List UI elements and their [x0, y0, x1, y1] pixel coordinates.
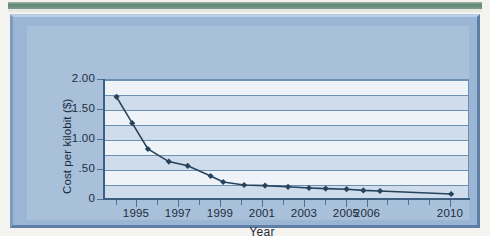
data-point-marker: [185, 163, 191, 169]
x-axis-tick-label: 1995: [123, 207, 149, 219]
page-top-band: [8, 2, 482, 9]
data-point-marker: [241, 182, 247, 188]
line-series: [104, 80, 469, 199]
data-point-marker: [344, 186, 350, 192]
x-axis-minor-tick: [387, 200, 388, 205]
x-axis-minor-tick: [429, 200, 430, 205]
x-axis-tick-label: 2006: [354, 207, 380, 219]
x-axis-minor-tick: [241, 200, 242, 205]
y-axis-tick: [97, 199, 103, 200]
y-axis-tick-label: 1.50: [72, 102, 95, 114]
chart-panel: 2.001.501.00.500 19951997199920012003200…: [27, 26, 469, 220]
y-axis-line: [103, 79, 105, 200]
data-point-marker: [323, 186, 329, 192]
x-axis-tick: [178, 200, 179, 207]
y-axis-tick: [97, 139, 103, 140]
y-axis-tick: [97, 79, 103, 80]
x-axis-tick-label: 1999: [207, 207, 233, 219]
x-axis-tick: [304, 200, 305, 207]
x-axis-tick: [450, 200, 451, 207]
x-axis-line: [103, 198, 470, 200]
scanned-page-background: 2.001.501.00.500 19951997199920012003200…: [0, 0, 490, 236]
y-axis-tick-label: 1.00: [72, 132, 95, 144]
x-axis-minor-tick: [157, 200, 158, 205]
data-point-marker: [306, 185, 312, 191]
x-axis-tick: [220, 200, 221, 207]
x-axis-minor-tick: [116, 200, 117, 205]
x-axis-tick-label: 1997: [165, 207, 191, 219]
x-axis-tick: [136, 200, 137, 207]
x-axis-tick-label: 2003: [291, 207, 317, 219]
x-axis-tick: [262, 200, 263, 207]
data-point-marker: [208, 173, 214, 179]
plot-area: [103, 79, 469, 199]
x-axis-tick-label: 2010: [437, 207, 463, 219]
data-point-marker: [360, 187, 366, 193]
series-line: [117, 97, 452, 194]
y-axis-tick-label: 0: [88, 192, 95, 204]
x-axis-tick-label: 2001: [249, 207, 275, 219]
data-point-marker: [377, 188, 383, 194]
x-axis-tick: [367, 200, 368, 207]
data-point-marker: [285, 184, 291, 190]
y-axis-tick: [97, 169, 103, 170]
data-point-marker: [262, 183, 268, 189]
y-axis-tick-label: .50: [78, 162, 95, 174]
x-axis-minor-tick: [199, 200, 200, 205]
y-axis-title: Cost per kilobit ($): [61, 99, 73, 194]
x-axis-tick: [346, 200, 347, 207]
y-axis-tick-label: 2.00: [72, 72, 95, 84]
x-axis-title: Year: [27, 225, 490, 236]
chart-figure-frame: 2.001.501.00.500 19951997199920012003200…: [10, 14, 480, 228]
page-top-band-shadow: [8, 9, 482, 12]
x-axis-minor-tick: [408, 200, 409, 205]
y-axis-tick: [97, 109, 103, 110]
data-point-marker: [448, 191, 454, 197]
x-axis-minor-tick: [325, 200, 326, 205]
data-point-marker: [220, 179, 226, 185]
x-axis-minor-tick: [283, 200, 284, 205]
